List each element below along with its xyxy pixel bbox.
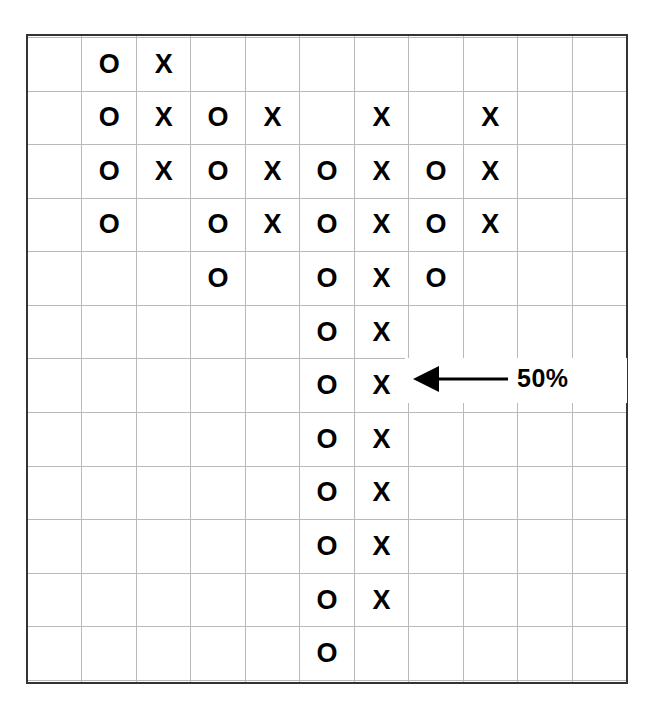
- grid-cell-empty: [463, 681, 517, 683]
- x-mark: X: [355, 587, 408, 614]
- grid-cell-empty: [28, 573, 82, 627]
- grid-cell-empty: [518, 37, 572, 91]
- grid-row: OXOXXX: [28, 91, 627, 145]
- grid-cell-x: X: [245, 91, 299, 145]
- x-mark: X: [137, 51, 190, 78]
- grid-cell-empty: [572, 520, 626, 574]
- grid-cell-empty: [245, 573, 299, 627]
- grid-cell-x: X: [245, 145, 299, 199]
- grid-cell-empty: [409, 681, 463, 683]
- grid-cell-empty: [518, 520, 572, 574]
- grid-cell-empty: [82, 573, 136, 627]
- grid-cell-empty: [300, 681, 354, 683]
- grid-cell-empty: [409, 520, 463, 574]
- grid-cell-x: X: [354, 573, 408, 627]
- x-mark: X: [137, 104, 190, 131]
- grid-cell-o: O: [82, 145, 136, 199]
- grid-cell-empty: [28, 305, 82, 359]
- grid-cell-x: X: [354, 198, 408, 252]
- grid-cell-o: O: [191, 91, 245, 145]
- o-mark: O: [300, 265, 353, 292]
- grid-row: OXOXOXOX: [28, 145, 627, 199]
- grid-cell-o: O: [300, 198, 354, 252]
- grid-row: OOXOXOX: [28, 198, 627, 252]
- grid-cell-empty: [28, 520, 82, 574]
- grid-row: OX: [28, 305, 627, 359]
- grid-cell-empty: [82, 305, 136, 359]
- grid-cell-empty: [463, 37, 517, 91]
- grid-cell-empty: [82, 681, 136, 683]
- grid-cell-empty: [518, 145, 572, 199]
- percent-label: 50%: [517, 364, 569, 393]
- x-mark: X: [464, 211, 517, 238]
- o-mark: O: [300, 426, 353, 453]
- grid-cell-empty: [409, 627, 463, 681]
- grid-cell-o: O: [300, 466, 354, 520]
- o-mark: O: [300, 479, 353, 506]
- grid-cell-o: O: [300, 359, 354, 413]
- grid-cell-o: O: [300, 145, 354, 199]
- grid-cell-empty: [409, 466, 463, 520]
- grid-cell-empty: [82, 359, 136, 413]
- grid-cell-empty: [191, 681, 245, 683]
- grid-cell-empty: [354, 37, 408, 91]
- x-mark: X: [464, 158, 517, 185]
- o-mark: O: [191, 158, 244, 185]
- grid-cell-empty: [572, 145, 626, 199]
- grid-row: OX: [28, 37, 627, 91]
- grid-cell-empty: [572, 681, 626, 683]
- grid-cell-o: O: [300, 627, 354, 681]
- x-mark: X: [355, 265, 408, 292]
- grid-cell-empty: [136, 466, 190, 520]
- o-mark: O: [409, 211, 462, 238]
- grid-cell-o: O: [191, 252, 245, 306]
- grid-cell-empty: [572, 573, 626, 627]
- grid-cell-empty: [136, 520, 190, 574]
- grid-row: OX: [28, 573, 627, 627]
- grid-cell-empty: [518, 413, 572, 467]
- grid-cell-empty: [28, 466, 82, 520]
- x-mark: X: [355, 211, 408, 238]
- grid-cell-empty: [354, 627, 408, 681]
- grid-cell-empty: [572, 627, 626, 681]
- grid-cell-empty: [28, 91, 82, 145]
- grid-cell-empty: [300, 91, 354, 145]
- o-mark: O: [409, 265, 462, 292]
- grid-cell-x: X: [354, 91, 408, 145]
- grid-cell-x: X: [463, 91, 517, 145]
- grid-cell-x: X: [354, 305, 408, 359]
- o-mark: O: [300, 587, 353, 614]
- grid-cell-empty: [245, 681, 299, 683]
- grid-cell-empty: [518, 466, 572, 520]
- grid-cell-empty: [518, 198, 572, 252]
- grid-cell-empty: [28, 145, 82, 199]
- grid-cell-empty: [518, 305, 572, 359]
- grid-cell-x: X: [136, 37, 190, 91]
- grid-cell-empty: [409, 37, 463, 91]
- grid-cell-x: X: [354, 145, 408, 199]
- grid-cell-empty: [463, 627, 517, 681]
- grid-row: O: [28, 627, 627, 681]
- grid-cell-empty: [82, 627, 136, 681]
- o-mark: O: [82, 211, 135, 238]
- grid-cell-empty: [572, 37, 626, 91]
- grid-cell-o: O: [191, 198, 245, 252]
- o-mark: O: [191, 265, 244, 292]
- x-mark: X: [355, 533, 408, 560]
- grid-cell-empty: [28, 359, 82, 413]
- grid-cell-x: X: [354, 413, 408, 467]
- grid-cell-empty: [28, 413, 82, 467]
- x-mark: X: [464, 104, 517, 131]
- grid-cell-empty: [136, 252, 190, 306]
- x-mark: X: [355, 104, 408, 131]
- o-mark: O: [191, 104, 244, 131]
- grid-cell-empty: [28, 198, 82, 252]
- grid-cell-empty: [572, 466, 626, 520]
- grid-cell-empty: [191, 573, 245, 627]
- grid-cell-empty: [463, 520, 517, 574]
- grid-cell-empty: [245, 252, 299, 306]
- grid-cell-empty: [572, 198, 626, 252]
- grid-cell-empty: [245, 520, 299, 574]
- grid-cell-x: X: [354, 520, 408, 574]
- grid-cell-x: X: [463, 198, 517, 252]
